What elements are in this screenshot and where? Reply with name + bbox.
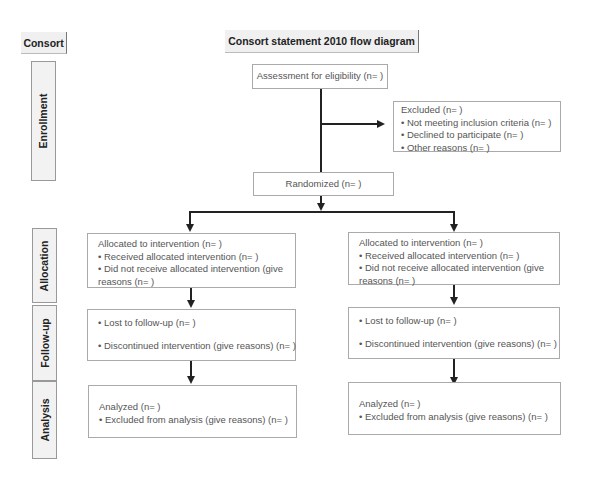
follow-up-item: • Discontinued intervention (give reason… <box>98 340 285 353</box>
analysis-box-right: Analyzed (n= ) • Excluded from analysis … <box>348 382 561 435</box>
consort-header: Consort <box>21 32 67 54</box>
assessment-box: Assessment for eligibility (n= ) <box>252 64 388 89</box>
arrow-down-icon <box>317 203 325 211</box>
allocation-box-left: Allocated to intervention (n= ) • Receiv… <box>87 233 296 288</box>
diagram-title-label: Consort statement 2010 flow diagram <box>228 35 415 47</box>
excluded-item: • Not meeting inclusion criteria (n= ) <box>401 117 553 130</box>
follow-up-item: • Lost to follow-up (n= ) <box>359 315 549 328</box>
analysis-title: Analyzed (n= ) <box>99 401 286 414</box>
analysis-box-left: Analyzed (n= ) • Excluded from analysis … <box>88 385 297 438</box>
analysis-item: • Excluded from analysis (give reasons) … <box>99 414 286 427</box>
excluded-item: • Other reasons (n= ) <box>401 142 553 155</box>
randomized-label: Randomized (n= ) <box>286 178 362 191</box>
connector-line <box>320 123 378 125</box>
follow-up-item: • Lost to follow-up (n= ) <box>98 317 285 330</box>
arrow-down-icon <box>186 224 194 232</box>
consort-header-label: Consort <box>23 37 63 49</box>
connector-line <box>453 211 455 225</box>
allocation-item: • Did not receive allocated intervention… <box>359 262 549 275</box>
analysis-title: Analyzed (n= ) <box>359 398 550 411</box>
randomized-box: Randomized (n= ) <box>253 172 394 196</box>
arrow-down-icon <box>187 376 195 384</box>
follow-up-box-right: • Lost to follow-up (n= ) • Discontinued… <box>348 307 560 359</box>
stage-enrollment: Enrollment <box>31 61 56 181</box>
stage-allocation-label: Allocation <box>39 240 51 291</box>
connector-line <box>189 211 191 225</box>
allocation-item: • Received allocated intervention (n= ) <box>98 251 285 264</box>
assessment-label: Assessment for eligibility (n= ) <box>257 70 383 83</box>
follow-up-item: • Discontinued intervention (give reason… <box>359 338 549 351</box>
allocation-item: • Received allocated intervention (n= ) <box>359 250 549 263</box>
follow-up-box-left: • Lost to follow-up (n= ) • Discontinued… <box>87 309 296 361</box>
stage-follow-up-label: Follow-up <box>39 318 51 368</box>
stage-allocation: Allocation <box>32 228 57 303</box>
stage-follow-up: Follow-up <box>32 305 57 381</box>
excluded-title: Excluded (n= ) <box>401 104 553 117</box>
stage-enrollment-label: Enrollment <box>38 94 50 149</box>
allocation-box-right: Allocated to intervention (n= ) • Receiv… <box>348 232 560 285</box>
arrow-right-icon <box>377 120 385 128</box>
allocation-title: Allocated to intervention (n= ) <box>359 237 549 250</box>
arrow-down-icon <box>450 297 458 305</box>
excluded-box: Excluded (n= ) • Not meeting inclusion c… <box>393 101 561 152</box>
allocation-title: Allocated to intervention (n= ) <box>98 238 285 251</box>
stage-analysis-label: Analysis <box>39 398 51 441</box>
arrow-down-icon <box>450 224 458 232</box>
allocation-item: • Did not receive allocated intervention… <box>98 263 285 276</box>
stage-analysis: Analysis <box>32 381 57 459</box>
connector-line <box>189 211 454 213</box>
diagram-title: Consort statement 2010 flow diagram <box>225 30 419 53</box>
analysis-item: • Excluded from analysis (give reasons) … <box>359 411 550 424</box>
arrow-down-icon <box>187 300 195 308</box>
connector-line <box>453 359 455 379</box>
allocation-item: reasons (n= ) <box>98 276 285 289</box>
excluded-item: • Declined to participate (n= ) <box>401 129 553 142</box>
